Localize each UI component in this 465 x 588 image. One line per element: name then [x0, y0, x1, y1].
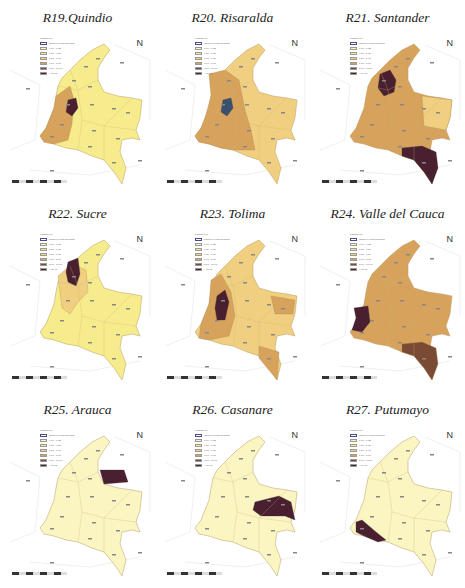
- map-panel-r24: R24. Valle del Cauca Legend (%) Origin o…: [310, 196, 465, 392]
- legend-label: 0.51 - 1.00: [49, 57, 61, 60]
- legend-item: > 10.01: [40, 71, 84, 76]
- map-panel-r19: R19.Quindio Legend (%) Origin of Final D…: [0, 0, 155, 196]
- legend-label: 0.26 - 0.50: [204, 52, 216, 55]
- legend-label: 0.51 - 1.00: [49, 449, 61, 452]
- map-title: R20. Risaralda: [155, 10, 310, 26]
- legend-swatch: [40, 57, 47, 61]
- legend-swatch: [40, 248, 47, 252]
- legend-swatch: [350, 258, 357, 262]
- legend-swatch: [40, 42, 47, 46]
- legend-item: > 10.01: [40, 463, 84, 468]
- legend-swatch: [350, 464, 357, 468]
- legend-label: 1.01 - 5.00: [204, 258, 216, 261]
- legend-label: Origin of Final Demand: [204, 238, 230, 241]
- legend-label: > 10.01: [49, 464, 57, 467]
- legend-item: > 10.01: [195, 463, 239, 468]
- colombia-map: [155, 0, 310, 196]
- legend-item: > 10.01: [195, 267, 239, 272]
- legend-swatch: [40, 72, 47, 76]
- colombia-map: [310, 392, 465, 588]
- map-title: R22. Sucre: [0, 206, 155, 222]
- north-arrow-icon: N: [292, 430, 299, 440]
- north-arrow-icon: N: [137, 430, 144, 440]
- legend-swatch: [40, 444, 47, 448]
- legend-label: Origin of Final Demand: [204, 434, 230, 437]
- legend-label: > 10.01: [49, 72, 57, 75]
- map-title: R25. Arauca: [0, 402, 155, 418]
- map-title: R26. Casanare: [155, 402, 310, 418]
- map-title: R21. Santander: [310, 10, 465, 26]
- north-arrow-icon: N: [292, 234, 299, 244]
- scale-bar: [167, 376, 222, 379]
- legend-label: 5.01 - 10.00: [204, 459, 217, 462]
- legend-label: 0.00 - 0.25: [49, 47, 61, 50]
- north-arrow-icon: N: [447, 234, 454, 244]
- legend-swatch: [195, 47, 202, 51]
- legend-label: Origin of Final Demand: [49, 238, 75, 241]
- legend-swatch: [40, 67, 47, 71]
- legend-label: 0.00 - 0.25: [204, 47, 216, 50]
- legend: Legend (%) Origin of Final Demand0.00 - …: [350, 233, 394, 272]
- legend-item: > 10.01: [195, 71, 239, 76]
- legend-swatch: [40, 454, 47, 458]
- legend-label: 0.51 - 1.00: [204, 253, 216, 256]
- map-title: R23. Tolima: [155, 206, 310, 222]
- legend-label: > 10.01: [359, 268, 367, 271]
- legend-swatch: [350, 454, 357, 458]
- legend-swatch: [195, 67, 202, 71]
- legend-label: > 10.01: [204, 72, 212, 75]
- colombia-map: [0, 196, 155, 392]
- legend-label: 0.26 - 0.50: [204, 248, 216, 251]
- scale-bar: [12, 572, 67, 575]
- legend: Legend (%) Origin of Final Demand0.00 - …: [40, 233, 84, 272]
- legend-label: > 10.01: [359, 72, 367, 75]
- legend-label: 1.01 - 5.00: [49, 258, 61, 261]
- scale-bar: [322, 376, 377, 379]
- north-arrow-icon: N: [292, 38, 299, 48]
- legend-swatch: [195, 434, 202, 438]
- legend-label: > 10.01: [204, 268, 212, 271]
- legend-swatch: [195, 444, 202, 448]
- scale-bar: [322, 572, 377, 575]
- legend-label: 1.01 - 5.00: [204, 454, 216, 457]
- legend-label: Origin of Final Demand: [49, 434, 75, 437]
- north-arrow-icon: N: [137, 234, 144, 244]
- map-title: R19.Quindio: [0, 10, 155, 26]
- legend-label: Origin of Final Demand: [49, 42, 75, 45]
- legend-swatch: [350, 47, 357, 51]
- legend-label: 1.01 - 5.00: [49, 454, 61, 457]
- legend-swatch: [195, 464, 202, 468]
- map-panel-r22: R22. Sucre Legend (%) Origin of Final De…: [0, 196, 155, 392]
- legend-label: 0.26 - 0.50: [359, 444, 371, 447]
- legend-swatch: [195, 72, 202, 76]
- legend-swatch: [350, 62, 357, 66]
- north-arrow-icon: N: [447, 38, 454, 48]
- legend-swatch: [195, 454, 202, 458]
- legend-swatch: [40, 243, 47, 247]
- legend-swatch: [350, 444, 357, 448]
- legend-label: 0.26 - 0.50: [49, 248, 61, 251]
- colombia-map: [0, 0, 155, 196]
- legend-label: Origin of Final Demand: [359, 434, 385, 437]
- map-title: R24. Valle del Cauca: [310, 206, 465, 222]
- legend: Legend (%) Origin of Final Demand0.00 - …: [40, 37, 84, 76]
- legend-label: > 10.01: [49, 268, 57, 271]
- legend-label: 0.51 - 1.00: [204, 57, 216, 60]
- legend-label: 5.01 - 10.00: [49, 67, 62, 70]
- legend-swatch: [40, 459, 47, 463]
- legend-swatch: [40, 62, 47, 66]
- legend-swatch: [195, 243, 202, 247]
- colombia-map: [310, 0, 465, 196]
- legend-swatch: [195, 57, 202, 61]
- legend-swatch: [350, 72, 357, 76]
- legend-label: 0.51 - 1.00: [359, 253, 371, 256]
- legend-label: 5.01 - 10.00: [204, 263, 217, 266]
- legend-swatch: [195, 449, 202, 453]
- map-panel-r25: R25. Arauca Legend (%) Origin of Final D…: [0, 392, 155, 588]
- legend-label: 0.51 - 1.00: [204, 449, 216, 452]
- legend-label: 1.01 - 5.00: [359, 258, 371, 261]
- map-panel-r20: R20. Risaralda Legend (%) Origin of Fina…: [155, 0, 310, 196]
- north-arrow-icon: N: [447, 430, 454, 440]
- legend-label: 0.00 - 0.25: [49, 243, 61, 246]
- map-panel-r23: R23. Tolima Legend (%) Origin of Final D…: [155, 196, 310, 392]
